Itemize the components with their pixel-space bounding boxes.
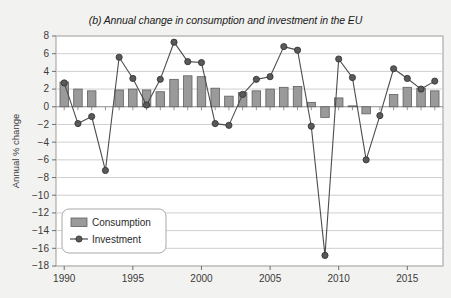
investment-point [198, 59, 204, 65]
x-tick-label: 2015 [396, 273, 419, 284]
investment-point [240, 91, 246, 97]
investment-point [89, 113, 95, 119]
consumption-bar [156, 92, 165, 107]
consumption-bar [252, 91, 261, 107]
investment-point [281, 44, 287, 50]
consumption-bar [74, 89, 83, 107]
investment-point [308, 123, 314, 129]
consumption-bar [183, 76, 192, 107]
investment-point [171, 39, 177, 45]
consumption-bar [307, 102, 316, 106]
consumption-bar [321, 107, 330, 118]
x-tick-label: 1990 [53, 273, 76, 284]
chart-figure: (b) Annual change in consumption and inv… [0, 0, 451, 298]
y-tick-label: −4 [38, 137, 50, 148]
consumption-bar [211, 88, 220, 107]
investment-point [418, 86, 424, 92]
y-tick-label: −8 [38, 172, 50, 183]
y-tick-label: 6 [43, 48, 49, 59]
x-tick-label: 2005 [259, 273, 282, 284]
investment-point [61, 80, 67, 86]
investment-point [390, 66, 396, 72]
investment-point [349, 74, 355, 80]
investment-point [102, 167, 108, 173]
consumption-bar [170, 79, 179, 106]
y-tick-label: −18 [32, 260, 49, 271]
consumption-bar [115, 90, 124, 107]
legend-swatch-consumption [71, 218, 87, 227]
legend-label-consumption: Consumption [92, 217, 151, 228]
y-tick-label: −10 [32, 190, 49, 201]
legend-marker-investment [76, 236, 82, 242]
y-tick-label: 4 [43, 66, 49, 77]
y-tick-label: −12 [32, 207, 49, 218]
investment-point [377, 113, 383, 119]
y-tick-label: 2 [43, 83, 49, 94]
y-tick-label: −2 [38, 119, 50, 130]
chart-plot-area: 86420−2−4−6−8−10−12−14−16−18199019952000… [0, 0, 451, 298]
investment-point [294, 47, 300, 53]
investment-point [404, 75, 410, 81]
investment-point [336, 56, 342, 62]
consumption-bar [280, 87, 289, 106]
x-tick-label: 2000 [190, 273, 213, 284]
legend-label-investment: Investment [92, 234, 141, 245]
investment-point [322, 252, 328, 258]
consumption-bar [431, 91, 440, 107]
y-tick-label: −6 [38, 154, 50, 165]
investment-point [116, 54, 122, 60]
x-tick-label: 2010 [328, 273, 351, 284]
consumption-bar [197, 77, 206, 107]
investment-point [432, 78, 438, 84]
investment-point [267, 74, 273, 80]
investment-point [75, 120, 81, 126]
x-tick-label: 1995 [122, 273, 145, 284]
consumption-bar [129, 89, 138, 107]
investment-point [143, 102, 149, 108]
investment-point [157, 76, 163, 82]
y-tick-label: −16 [32, 243, 49, 254]
consumption-bar [225, 96, 234, 107]
y-axis-title: Annual % change [10, 114, 21, 188]
investment-point [185, 59, 191, 65]
investment-point [363, 157, 369, 163]
consumption-bar [362, 107, 371, 114]
consumption-bar [293, 86, 302, 106]
chart-legend: ConsumptionInvestment [62, 209, 166, 253]
investment-point [253, 76, 259, 82]
investment-point [130, 75, 136, 81]
investment-point [212, 120, 218, 126]
investment-point [226, 122, 232, 128]
consumption-bar [389, 94, 398, 106]
consumption-bar [87, 91, 96, 107]
y-tick-label: −14 [32, 225, 49, 236]
y-tick-label: 0 [43, 101, 49, 112]
consumption-bar [348, 106, 357, 107]
consumption-bar [266, 89, 275, 107]
y-tick-label: 8 [43, 30, 49, 41]
consumption-bar [403, 87, 412, 106]
